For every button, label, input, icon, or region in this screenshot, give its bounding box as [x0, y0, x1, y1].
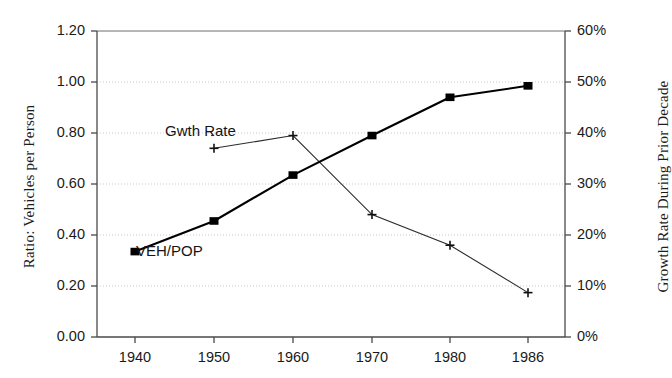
left-tick-label: 0.00 — [35, 328, 85, 344]
x-tick-label: 1970 — [337, 349, 407, 365]
right-tick-label: 50% — [577, 73, 637, 89]
right-tick-label: 10% — [577, 277, 637, 293]
series-label-gwth-rate: Gwth Rate — [165, 122, 236, 139]
x-tick-label: 1940 — [100, 349, 170, 365]
x-tick-label: 1980 — [415, 349, 485, 365]
right-axis-title: Growth Rate During Prior Decade — [655, 52, 672, 322]
left-tick-label: 1.20 — [35, 22, 85, 38]
x-tick-label: 1950 — [179, 349, 249, 365]
series-label-veh-pop: VEH/POP — [136, 242, 203, 259]
right-tick-label: 40% — [577, 124, 637, 140]
right-tick-label: 20% — [577, 226, 637, 242]
right-tick-label: 0% — [577, 328, 637, 344]
right-tick-label: 60% — [577, 22, 637, 38]
left-tick-label: 0.80 — [35, 124, 85, 140]
left-tick-label: 0.40 — [35, 226, 85, 242]
x-tick-label: 1986 — [493, 349, 563, 365]
left-tick-label: 0.20 — [35, 277, 85, 293]
right-tick-label: 30% — [577, 175, 637, 191]
left-tick-label: 1.00 — [35, 73, 85, 89]
left-tick-label: 0.60 — [35, 175, 85, 191]
x-tick-label: 1960 — [258, 349, 328, 365]
